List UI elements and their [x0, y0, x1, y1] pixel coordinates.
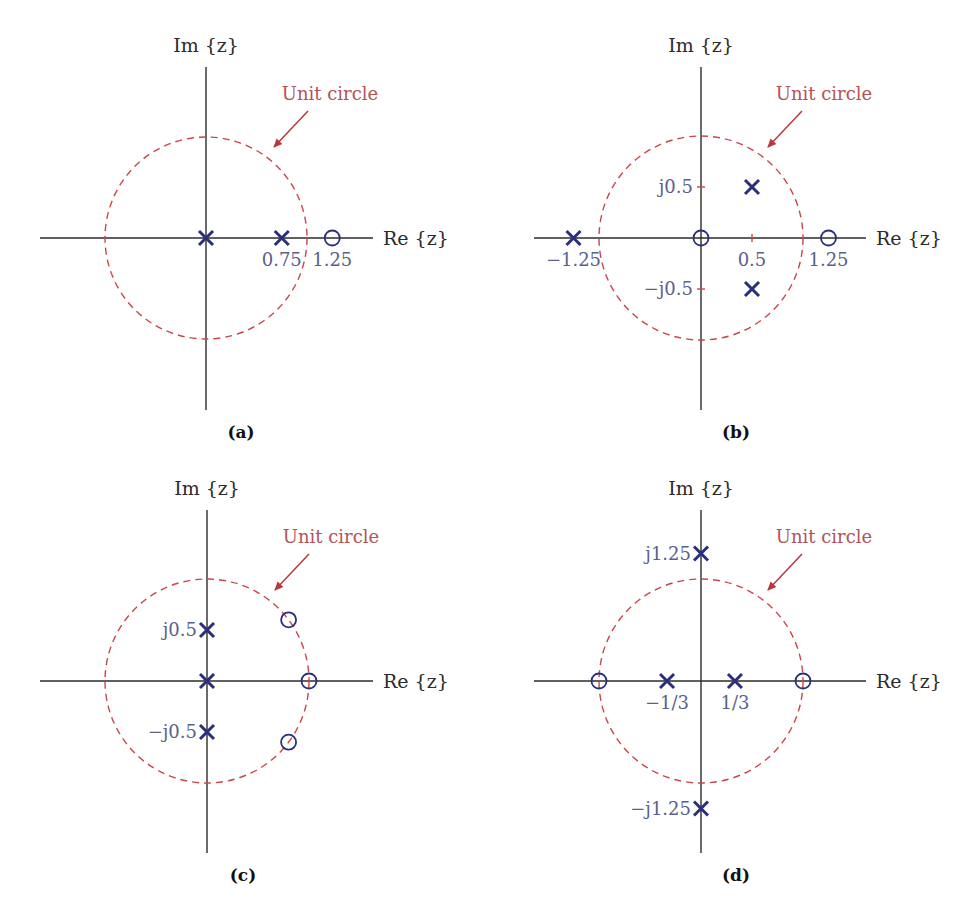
- value-label: −1.25: [546, 249, 601, 270]
- panel-a: Im {z}Re {z}Unit circle0.751.25(a): [40, 34, 449, 442]
- value-label: 1.25: [312, 249, 352, 270]
- panel-caption: (c): [230, 865, 256, 885]
- value-label: 1/3: [720, 692, 749, 713]
- value-label: 1.25: [808, 249, 848, 270]
- panel-caption: (a): [227, 422, 254, 442]
- arrow-icon: [768, 554, 802, 590]
- real-axis-label: Re {z}: [383, 227, 449, 249]
- imaginary-axis-label: Im {z}: [173, 34, 239, 56]
- value-label: j0.5: [657, 176, 693, 197]
- value-label: j1.25: [643, 543, 691, 564]
- panel-b: Im {z}Re {z}Unit circle−1.250.51.25j0.5−…: [534, 34, 942, 442]
- unit-circle-label: Unit circle: [282, 83, 378, 104]
- unit-circle-label: Unit circle: [776, 526, 872, 547]
- real-axis-label: Re {z}: [383, 670, 449, 692]
- arrow-icon: [274, 111, 308, 147]
- arrow-icon: [768, 111, 802, 147]
- arrow-icon: [275, 554, 309, 590]
- real-axis-label: Re {z}: [876, 670, 942, 692]
- imaginary-axis-label: Im {z}: [174, 477, 240, 499]
- panel-d: Im {z}Re {z}Unit circle−1/31/3j1.25−j1.2…: [534, 477, 942, 885]
- pole-zero-figure: Im {z}Re {z}Unit circle0.751.25(a)Im {z}…: [0, 0, 965, 917]
- pole-marker-icon: [745, 282, 759, 296]
- value-label: 0.75: [262, 249, 302, 270]
- pole-zero-plots-svg: Im {z}Re {z}Unit circle0.751.25(a)Im {z}…: [0, 0, 965, 917]
- value-label: 0.5: [738, 249, 767, 270]
- value-label: −j1.25: [630, 798, 691, 819]
- value-label: −j0.5: [644, 278, 693, 299]
- value-label: j0.5: [161, 619, 197, 640]
- imaginary-axis-label: Im {z}: [668, 34, 734, 56]
- unit-circle-label: Unit circle: [283, 526, 379, 547]
- pole-marker-icon: [745, 180, 759, 194]
- value-label: −1/3: [645, 692, 689, 713]
- imaginary-axis-label: Im {z}: [668, 477, 734, 499]
- panel-caption: (b): [722, 422, 750, 442]
- real-axis-label: Re {z}: [876, 227, 942, 249]
- panel-caption: (d): [722, 865, 750, 885]
- value-label: −j0.5: [148, 721, 197, 742]
- unit-circle-label: Unit circle: [776, 83, 872, 104]
- panel-c: Im {z}Re {z}Unit circlej0.5−j0.5(c): [40, 477, 449, 885]
- zero-marker-icon: [281, 612, 296, 627]
